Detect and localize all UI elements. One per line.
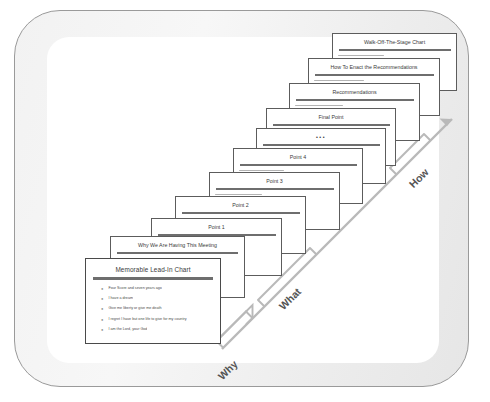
- slide-title: Walk-Off-The-Stage Chart: [333, 39, 456, 45]
- bullet-label: I have a dream: [108, 296, 133, 301]
- list-item: ● I regret I have but one life to give f…: [91, 317, 216, 322]
- bullet-label: Give me liberty or give me death: [108, 306, 161, 311]
- list-item: ● Four Score and seven years ago: [91, 286, 216, 291]
- bullet-icon: ●: [101, 286, 103, 291]
- bullet-label: I am the Lord, your God: [108, 327, 147, 332]
- list-item: ● Give me liberty or give me death: [91, 306, 216, 311]
- slide-title: Memorable Lead-In Chart: [86, 266, 220, 273]
- slide-title: •••: [257, 134, 385, 140]
- slide-title: Point 3: [210, 178, 339, 184]
- bullet-icon: ●: [101, 327, 103, 332]
- slide-title: How To Enact the Recommendations: [309, 64, 439, 70]
- list-item: ● I have a dream: [91, 296, 216, 301]
- storyboard-canvas: Why What How Walk-Off-The-Stage Chart Ho…: [0, 0, 490, 402]
- bullet-icon: ●: [101, 306, 103, 311]
- list-item: ● I am the Lord, your God: [91, 327, 216, 332]
- slide-title: Point 1: [152, 224, 281, 230]
- bullet-label: I regret I have but one life to give for…: [108, 317, 186, 322]
- slide-memorable-lead-in-chart[interactable]: Memorable Lead-In Chart ● Four Score and…: [85, 258, 221, 344]
- slide-body: ● Four Score and seven years ago ● I hav…: [86, 280, 220, 333]
- slide-title: Point 2: [176, 202, 305, 208]
- slide-title: Recommendations: [290, 89, 419, 95]
- slide-title: Why We Are Having This Meeting: [111, 242, 244, 248]
- bullet-icon: ●: [101, 317, 103, 322]
- slide-title: Final Point: [267, 114, 395, 120]
- slide-title: Point 4: [234, 154, 362, 160]
- bullet-icon: ●: [101, 296, 103, 301]
- bullet-label: Four Score and seven years ago: [108, 286, 162, 291]
